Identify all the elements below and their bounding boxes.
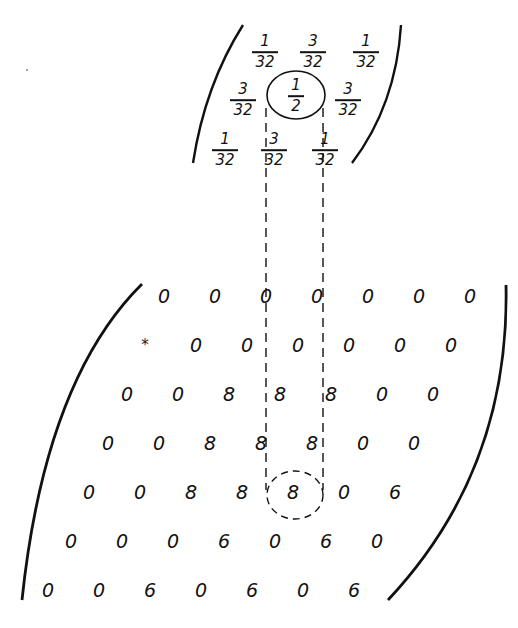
kernel-weight: 12 [288, 78, 304, 114]
numerator: 3 [308, 34, 318, 51]
matrix-cell: 6 [144, 581, 156, 600]
matrix-cell: 0 [190, 336, 202, 355]
kernel-weight: 132 [353, 34, 379, 70]
asterisk-marker: * [141, 336, 149, 354]
denominator: 32 [215, 151, 234, 168]
matrix-cell: 8 [306, 434, 318, 453]
matrix-cell: 0 [42, 581, 54, 600]
numerator: 1 [291, 78, 301, 95]
matrix-cell: 0 [260, 287, 272, 306]
matrix-cell: 8 [236, 483, 248, 502]
numerator: 1 [260, 34, 270, 51]
kernel-weight: 332 [335, 82, 361, 118]
matrix-cell: 8 [204, 434, 216, 453]
denominator: 32 [264, 151, 283, 168]
matrix-cell: 0 [93, 581, 105, 600]
matrix-cell: 0 [116, 532, 128, 551]
matrix-cell: 6 [246, 581, 258, 600]
matrix-cell: 0 [195, 581, 207, 600]
denominator: 32 [338, 101, 357, 118]
denominator: 32 [315, 151, 334, 168]
denominator: 2 [291, 97, 301, 114]
matrix-cell: 0 [167, 532, 179, 551]
denominator: 32 [356, 53, 375, 70]
diagram-lines [0, 0, 518, 628]
kernel-weight: 132 [212, 132, 238, 168]
matrix-right-bracket [388, 285, 506, 600]
matrix-cell: 0 [134, 483, 146, 502]
stray-dot [26, 69, 28, 71]
kernel-weight: 332 [230, 82, 256, 118]
kernel-weight: 132 [312, 132, 338, 168]
matrix-cell: 0 [464, 287, 476, 306]
matrix-cell: 0 [153, 434, 165, 453]
matrix-cell: 0 [65, 532, 77, 551]
matrix-cell: 0 [172, 385, 184, 404]
matrix-cell: 6 [320, 532, 332, 551]
matrix-cell: 0 [413, 287, 425, 306]
matrix-cell: 0 [121, 385, 133, 404]
matrix-cell: 0 [102, 434, 114, 453]
matrix-cell: 0 [343, 336, 355, 355]
matrix-cell: 6 [389, 483, 401, 502]
matrix-cell: 0 [209, 287, 221, 306]
matrix-cell: 0 [376, 385, 388, 404]
denominator: 32 [255, 53, 274, 70]
matrix-cell: 0 [394, 336, 406, 355]
numerator: 1 [220, 132, 230, 149]
matrix-cell: 8 [325, 385, 337, 404]
matrix-cell: 0 [357, 434, 369, 453]
denominator: 32 [233, 101, 252, 118]
numerator: 3 [269, 132, 279, 149]
numerator: 3 [238, 82, 248, 99]
matrix-cell: 6 [218, 532, 230, 551]
matrix-cell: 0 [427, 385, 439, 404]
matrix-cell: 8 [255, 434, 267, 453]
matrix-cell: 8 [185, 483, 197, 502]
matrix-cell: 6 [348, 581, 360, 600]
matrix-cell: 0 [338, 483, 350, 502]
numerator: 1 [320, 132, 330, 149]
kernel-weight: 332 [261, 132, 287, 168]
denominator: 32 [303, 53, 322, 70]
matrix-cell: 0 [83, 483, 95, 502]
matrix-cell: 0 [445, 336, 457, 355]
matrix-cell: 0 [297, 581, 309, 600]
matrix-cell: 8 [223, 385, 235, 404]
matrix-cell: 8 [274, 385, 286, 404]
matrix-cell: 0 [311, 287, 323, 306]
matrix-cell: 0 [371, 532, 383, 551]
numerator: 3 [343, 82, 353, 99]
matrix-cell: 8 [287, 483, 299, 502]
matrix-cell: 0 [292, 336, 304, 355]
numerator: 1 [361, 34, 371, 51]
kernel-weight: 132 [252, 34, 278, 70]
matrix-cell: 0 [269, 532, 281, 551]
matrix-cell: 0 [362, 287, 374, 306]
matrix-cell: 0 [158, 287, 170, 306]
kernel-weight: 332 [300, 34, 326, 70]
matrix-cell: 0 [241, 336, 253, 355]
matrix-cell: 0 [408, 434, 420, 453]
matrix-left-bracket [22, 284, 142, 600]
